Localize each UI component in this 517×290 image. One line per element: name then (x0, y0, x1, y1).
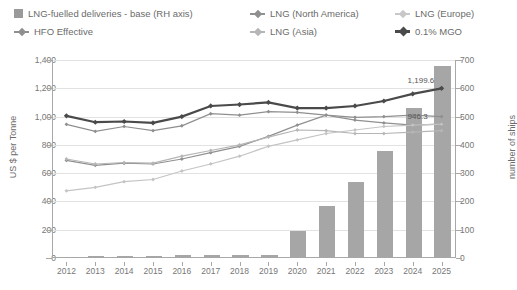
data-point-marker (295, 138, 299, 142)
plot-region: US $ per Tonne number of ships 1,4001,20… (0, 46, 516, 290)
data-point-marker (353, 118, 357, 122)
data-point-marker (295, 110, 299, 114)
line-marker-icon (250, 27, 265, 36)
line-lng-asia (66, 130, 441, 164)
data-point-marker (151, 161, 155, 165)
legend-label: HFO Effective (34, 26, 93, 37)
data-point-marker (267, 144, 271, 148)
chart-legend: LNG-fuelled deliveries - base (RH axis) … (10, 6, 510, 46)
data-label: 946.3 (408, 112, 428, 121)
data-point-marker (93, 120, 98, 125)
data-point-marker (352, 103, 357, 108)
data-point-marker (238, 113, 242, 117)
line-marker-icon (250, 9, 265, 18)
line-series-layer (0, 46, 516, 290)
x-axis-labels: 2012201320142015201620172018201920202021… (52, 262, 456, 286)
data-point-marker (440, 129, 444, 133)
data-point-marker (324, 105, 329, 110)
line-marker-icon (14, 27, 29, 36)
data-point-marker (93, 130, 97, 134)
legend-label: LNG (North America) (270, 8, 359, 19)
data-point-marker (122, 180, 126, 184)
data-point-marker (209, 112, 213, 116)
data-point-marker (150, 120, 155, 125)
data-point-marker (65, 189, 69, 193)
data-point-marker (151, 129, 155, 133)
legend-item-lng-north-america[interactable]: LNG (North America) (250, 8, 359, 19)
data-point-marker (411, 130, 415, 134)
x-tick-label: 2025 (422, 266, 462, 276)
data-point-marker (209, 162, 213, 166)
data-point-marker (411, 123, 415, 127)
legend-label: LNG (Asia) (270, 26, 317, 37)
legend-item-hfo-effective[interactable]: HFO Effective (14, 26, 93, 37)
data-point-marker (353, 132, 357, 136)
legend-item-lng-fuelled-deliveries[interactable]: LNG-fuelled deliveries - base (RH axis) (14, 8, 193, 19)
legend-label: LNG-fuelled deliveries - base (RH axis) (28, 8, 193, 19)
legend-item-mgo[interactable]: 0.1% MGO (395, 26, 462, 37)
data-point-marker (440, 115, 444, 119)
bar-swatch-icon (14, 9, 23, 18)
data-point-marker (324, 132, 328, 136)
data-point-marker (122, 125, 126, 129)
data-point-marker (439, 86, 444, 91)
data-point-marker (324, 113, 328, 117)
data-point-marker (295, 128, 299, 132)
data-point-marker (295, 105, 300, 110)
data-point-marker (382, 125, 386, 129)
line-marker-icon (395, 9, 410, 18)
data-point-marker (180, 154, 184, 158)
legend-item-lng-asia[interactable]: LNG (Asia) (250, 26, 317, 37)
data-point-marker (64, 113, 69, 118)
data-point-marker (151, 178, 155, 182)
legend-label: 0.1% MGO (415, 26, 462, 37)
data-point-marker (410, 91, 415, 96)
data-point-marker (295, 123, 299, 127)
data-point-marker (382, 115, 386, 119)
data-point-marker (238, 154, 242, 158)
line-marker-icon (395, 27, 410, 36)
data-point-marker (267, 110, 271, 114)
data-point-marker (93, 185, 97, 189)
line-lng-europe (66, 124, 441, 191)
data-label: 1,199.6 (408, 76, 435, 85)
data-point-marker (180, 169, 184, 173)
data-point-marker (382, 132, 386, 136)
line-0-1-mgo (66, 88, 441, 123)
data-point-marker (440, 122, 444, 126)
data-point-marker (353, 128, 357, 132)
data-point-marker (122, 119, 127, 124)
legend-label: LNG (Europe) (415, 8, 474, 19)
data-point-marker (382, 121, 386, 125)
data-point-marker (266, 100, 271, 105)
legend-item-lng-europe[interactable]: LNG (Europe) (395, 8, 474, 19)
data-point-marker (179, 114, 184, 119)
data-point-marker (65, 122, 69, 126)
data-point-marker (237, 102, 242, 107)
data-point-marker (381, 98, 386, 103)
data-point-marker (180, 124, 184, 128)
